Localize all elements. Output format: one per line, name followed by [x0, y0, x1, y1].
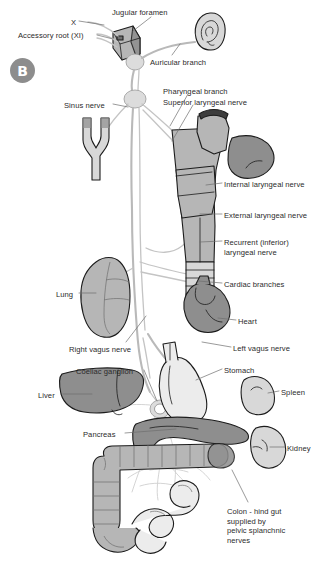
label-coeliac-ganglion: Coeliac ganglion: [76, 367, 146, 377]
label-jugular-foramen: Jugular foramen: [112, 8, 186, 18]
label-internal-laryngeal-nerve: Internal laryngeal nerve: [224, 180, 325, 190]
ear-structure: [195, 13, 225, 50]
label-pharyngeal-branch: Pharyngeal branch: [163, 87, 243, 97]
label-spleen: Spleen: [281, 388, 317, 398]
label-lung: Lung: [56, 290, 82, 300]
stomach-structure: [159, 342, 228, 425]
label-external-laryngeal-nerve: External laryngeal nerve: [224, 211, 325, 221]
label-stomach: Stomach: [224, 366, 266, 376]
label-accessory-root-xi: Accessory root (XI): [18, 31, 100, 41]
label-pancreas: Pancreas: [83, 430, 129, 440]
label-superior-laryngeal-nerve: Superior laryngeal nerve: [163, 98, 268, 108]
carotid-bifurcation-structure: [83, 118, 109, 180]
spleen-structure: [241, 377, 274, 415]
label-left-vagus-nerve: Left vagus nerve: [233, 344, 305, 354]
label-kidney: Kidney: [287, 444, 323, 454]
label-right-vagus-nerve: Right vagus nerve: [69, 345, 147, 355]
lung-structure: [81, 258, 130, 338]
label-cardiac-branches: Cardiac branches: [224, 280, 300, 290]
small-intestine-structure: [132, 481, 199, 554]
label-colon-hind-gut: Colon - hind gut supplied by pelvic spla…: [227, 507, 311, 545]
pharynx-larynx-trachea-structure: [172, 110, 274, 301]
label-auricular-branch: Auricular branch: [150, 58, 224, 68]
label-sinus-nerve: Sinus nerve: [64, 101, 116, 111]
label-cranial-nerve-x: X: [71, 18, 91, 28]
panel-letter-badge: B: [10, 58, 35, 83]
label-heart: Heart: [238, 317, 268, 327]
label-liver: Liver: [38, 391, 66, 401]
label-recurrent-laryngeal-nerve: Recurrent (inferior) laryngeal nerve: [224, 238, 320, 257]
anatomy-figure: .ol{stroke:#1c1c1c;stroke-width:1.1;stro…: [0, 0, 325, 577]
